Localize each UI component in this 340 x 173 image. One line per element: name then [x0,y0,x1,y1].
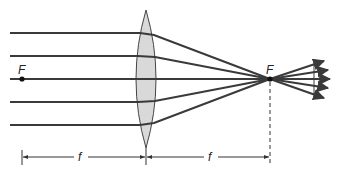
diagram-canvas [0,0,340,173]
focal-point-left-dot [19,76,24,81]
ray-out-1 [270,61,324,79]
lens-diagram: F F f f [0,0,340,173]
outgoing-rays [270,61,330,98]
ray-out-2 [270,70,328,79]
focal-length-right-label: f [208,151,211,163]
ray-out-5 [270,79,324,98]
focal-point-left-label: F [18,64,25,76]
focal-point-right-dot [267,76,272,81]
dimension-lines [22,148,269,165]
ray-out-4 [270,79,328,88]
focal-length-left-label: f [78,151,81,163]
focal-point-right-label: F [266,64,273,76]
